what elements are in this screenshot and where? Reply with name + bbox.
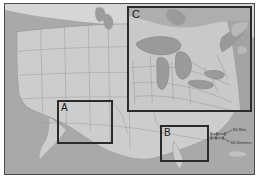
- inset-basemap-great-lakes-northeast: [129, 8, 250, 110]
- study-area-box-b[interactable]: B: [160, 125, 209, 162]
- scale-bar-miles-bar: [211, 132, 225, 136]
- scale-bar-kilometers-bar: [211, 136, 223, 140]
- study-area-label-b: B: [164, 127, 171, 138]
- study-area-label-a: A: [61, 102, 68, 113]
- main-map-frame: A B: [4, 3, 255, 175]
- scale-bar-graphic: 300 Miles 300 Kilometers: [208, 123, 255, 150]
- map-scale-bar: 300 Miles 300 Kilometers: [208, 123, 255, 150]
- map-figure: A B: [0, 0, 259, 179]
- inset-map-panel-c[interactable]: C: [127, 6, 252, 112]
- scale-label-miles: 300 Miles: [233, 128, 247, 132]
- scale-label-kilometers: 300 Kilometers: [231, 141, 253, 145]
- study-area-box-a[interactable]: A: [57, 100, 113, 144]
- study-area-label-c: C: [132, 8, 140, 20]
